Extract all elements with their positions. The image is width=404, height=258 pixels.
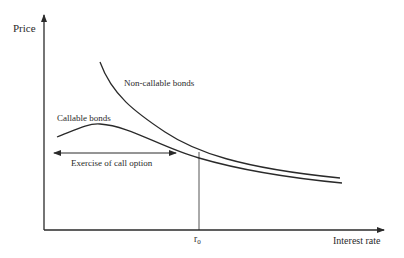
r0-subscript: 0	[197, 238, 201, 246]
callable-label: Callable bonds	[57, 113, 111, 123]
bond-price-diagram: Price Interest rate Non-callable bonds C…	[0, 0, 404, 258]
y-axis-label: Price	[13, 22, 36, 34]
x-axis-label: Interest rate	[333, 235, 380, 246]
non-callable-label: Non-callable bonds	[124, 78, 194, 88]
exercise-label: Exercise of call option	[71, 158, 152, 168]
r0-label: r0	[194, 234, 201, 246]
diagram-canvas	[0, 0, 404, 258]
